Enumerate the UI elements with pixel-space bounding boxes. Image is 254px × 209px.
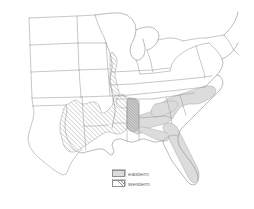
range-western	[60, 52, 131, 152]
legend-swatch-western-html	[112, 180, 125, 187]
legend-label-western: western	[128, 180, 150, 188]
legend-item-eastern: eastern	[112, 169, 164, 178]
legend: eastern western	[112, 169, 164, 189]
legend-swatch-eastern-html	[112, 170, 125, 177]
legend-label-eastern: eastern	[128, 170, 149, 178]
distribution-map-figure: eastern western	[0, 0, 254, 209]
legend-item-western: western	[112, 179, 164, 188]
range-overlap	[127, 98, 139, 132]
